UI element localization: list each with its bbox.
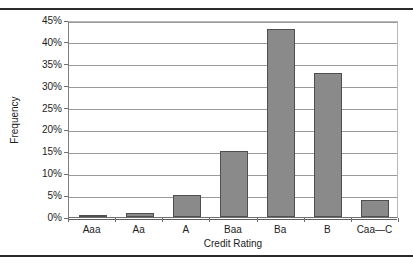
- x-axis-tick-mark: [162, 218, 163, 222]
- x-axis-tick-mark: [351, 218, 352, 222]
- bar-series: [69, 22, 397, 217]
- y-axis-tick-label: 5%: [48, 191, 62, 201]
- bar-slot: [305, 22, 352, 217]
- x-axis-tick-mark: [209, 218, 210, 222]
- y-axis-tick-label: 10%: [42, 169, 62, 179]
- y-axis-ticks: 0%5%10%15%20%25%30%35%40%45%: [0, 21, 68, 218]
- y-axis-tick-label: 40%: [42, 38, 62, 48]
- x-axis-tick-label: Aa: [133, 224, 145, 236]
- x-axis-tick-mark: [115, 218, 116, 222]
- bar-slot: [163, 22, 210, 217]
- x-axis-tick-mark: [304, 218, 305, 222]
- x-axis: AaaAaABaaBaBCaa—C: [68, 218, 398, 240]
- figure-bottom-rule: [0, 255, 413, 257]
- y-axis-tick-label: 25%: [42, 104, 62, 114]
- bar: [126, 213, 154, 217]
- x-axis-tick-mark: [68, 218, 69, 222]
- bar: [267, 29, 295, 217]
- bar-slot: [352, 22, 399, 217]
- bar-slot: [210, 22, 257, 217]
- bar-slot: [116, 22, 163, 217]
- bar: [361, 200, 389, 218]
- x-axis-tick-label: B: [324, 224, 331, 236]
- bar-slot: [258, 22, 305, 217]
- bar-slot: [69, 22, 116, 217]
- y-axis-tick-label: 20%: [42, 125, 62, 135]
- bar: [314, 73, 342, 217]
- x-axis-tick-label: Caa—C: [357, 224, 393, 236]
- y-axis-tick-label: 30%: [42, 82, 62, 92]
- x-axis-tick-mark: [398, 218, 399, 222]
- x-axis-tick-label: Baa: [224, 224, 242, 236]
- plot-area: [68, 21, 398, 218]
- y-axis-tick-label: 35%: [42, 60, 62, 70]
- x-axis-tick-label: Ba: [274, 224, 286, 236]
- frequency-by-credit-rating-chart: Frequency 0%5%10%15%20%25%30%35%40%45% A…: [0, 10, 413, 254]
- y-axis-tick-label: 0%: [48, 213, 62, 223]
- bar: [173, 195, 201, 217]
- y-axis-tick-label: 15%: [42, 147, 62, 157]
- x-axis-tick-mark: [257, 218, 258, 222]
- x-axis-tick-label: Aaa: [83, 224, 101, 236]
- y-axis-tick-label: 45%: [42, 16, 62, 26]
- x-axis-tick-label: A: [183, 224, 190, 236]
- bar: [220, 151, 248, 217]
- x-axis-title: Credit Rating: [68, 238, 398, 249]
- bar: [79, 215, 107, 217]
